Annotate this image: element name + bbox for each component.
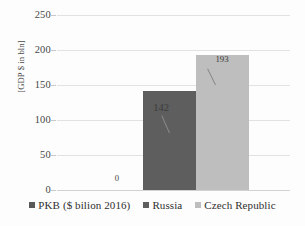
gridline-150	[57, 85, 290, 86]
data-label-russia: 142	[145, 102, 177, 113]
y-tick-50: 50	[21, 150, 51, 160]
legend-item-russia[interactable]: Russia	[143, 199, 182, 211]
gridline-250	[57, 15, 290, 16]
legend-label-czech: Czech Republic	[204, 199, 275, 211]
tick-mark-0	[51, 190, 56, 191]
data-label-czech: 193	[207, 54, 237, 65]
plot-area: 0 142 193	[57, 15, 290, 190]
y-axis-tick-labels: 250 200 150 100 50 0	[18, 15, 51, 190]
axis-baseline-0	[57, 190, 290, 191]
legend-item-czech[interactable]: Czech Republic	[195, 199, 275, 211]
legend-swatch-icon-czech	[195, 202, 201, 208]
legend-swatch-icon-russia	[143, 202, 149, 208]
tick-mark-100	[51, 120, 56, 121]
tick-mark-250	[51, 15, 56, 16]
y-tick-200: 200	[21, 45, 51, 55]
legend-label-pkb: PKB ($ bilion 2016)	[38, 199, 130, 211]
y-tick-0: 0	[21, 185, 51, 195]
chart-legend: PKB ($ bilion 2016) Russia Czech Republi…	[0, 199, 305, 211]
gridline-200	[57, 50, 290, 51]
tick-mark-200	[51, 50, 56, 51]
data-label-pkb: 0	[101, 173, 133, 184]
bar-chart: [GDP $ in bln] 250 200 150 100 50 0 0	[0, 0, 305, 226]
legend-item-pkb[interactable]: PKB ($ bilion 2016)	[29, 199, 130, 211]
legend-swatch-icon-pkb	[29, 202, 35, 208]
tick-mark-150	[51, 85, 56, 86]
y-tick-150: 150	[21, 80, 51, 90]
bar-czech[interactable]	[196, 55, 249, 190]
tick-mark-50	[51, 155, 56, 156]
legend-label-russia: Russia	[152, 199, 182, 211]
y-tick-100: 100	[21, 115, 51, 125]
y-tick-250: 250	[21, 10, 51, 20]
